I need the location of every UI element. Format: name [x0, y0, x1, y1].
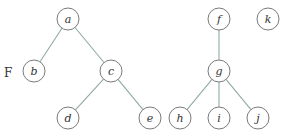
- node-label: k: [265, 13, 272, 26]
- node-g: g: [208, 60, 230, 82]
- edge-a-b: [40, 28, 62, 62]
- node-label: c: [108, 65, 114, 78]
- node-a: a: [57, 8, 79, 30]
- forest-diagram: abcdefghijk F: [0, 0, 289, 136]
- edge-g-j: [226, 79, 251, 109]
- node-i: i: [208, 107, 230, 129]
- edge-g-h: [187, 79, 212, 109]
- node-label: d: [64, 112, 71, 125]
- node-j: j: [247, 107, 269, 129]
- edge-c-e: [118, 79, 143, 109]
- node-label: b: [30, 65, 37, 78]
- node-h: h: [169, 107, 191, 129]
- node-label: a: [65, 13, 72, 26]
- node-f: f: [208, 8, 230, 30]
- node-k: k: [257, 8, 279, 30]
- node-d: d: [57, 107, 79, 129]
- node-label: g: [215, 65, 222, 78]
- edge-c-d: [75, 79, 103, 110]
- forest-label: F: [4, 66, 12, 80]
- node-c: c: [100, 60, 122, 82]
- node-label: e: [147, 112, 154, 125]
- node-label: h: [176, 112, 183, 125]
- node-e: e: [139, 107, 161, 129]
- node-label: i: [217, 112, 221, 125]
- edge-a-c: [75, 27, 104, 62]
- nodes-group: abcdefghijk: [23, 8, 279, 129]
- node-b: b: [23, 60, 45, 82]
